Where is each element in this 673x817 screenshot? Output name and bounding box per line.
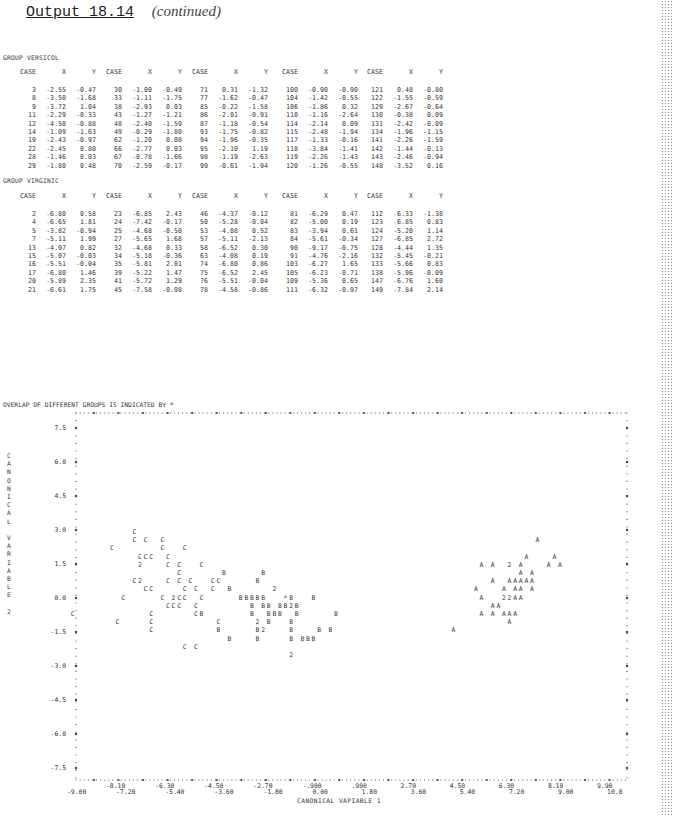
data-point: A	[513, 578, 517, 584]
data-point: C	[200, 562, 204, 568]
y-tick-label: 1.5	[54, 560, 66, 568]
data-point: C	[132, 578, 136, 584]
x-tick-label: -2.70	[253, 782, 272, 790]
data-point: B	[312, 595, 316, 601]
data-point: B	[278, 603, 282, 609]
data-point: C	[138, 554, 142, 560]
data-point: C	[160, 537, 164, 543]
data-point: 2	[261, 627, 265, 633]
data-point: A	[508, 619, 512, 625]
y-tick-label: -1.5	[51, 628, 66, 636]
data-point: B	[278, 611, 282, 617]
data-point: C	[149, 611, 153, 617]
data-point: 2	[138, 578, 142, 584]
data-point: C	[177, 603, 181, 609]
data-point: A	[519, 595, 523, 601]
data-point: A	[519, 578, 523, 584]
data-point: C	[172, 603, 176, 609]
data-point: C	[166, 554, 170, 560]
data-point: 2	[272, 586, 276, 592]
data-point: B	[261, 603, 265, 609]
data-point: C	[200, 595, 204, 601]
data-point: 2	[138, 562, 142, 568]
data-point: B	[312, 636, 316, 642]
data-point: B	[261, 595, 265, 601]
data-point: A	[452, 627, 456, 633]
data-point: B	[289, 619, 293, 625]
data-point: B	[289, 636, 293, 642]
y-axis-title: CANONICAL VARIABLE 2	[5, 452, 13, 616]
data-point: C	[188, 578, 192, 584]
data-point: B	[228, 586, 232, 592]
data-point: C	[144, 586, 148, 592]
data-point: B	[267, 603, 271, 609]
data-point: B	[228, 636, 232, 642]
y-tick-label: 0.0	[54, 594, 66, 602]
data-point: 2	[172, 595, 176, 601]
data-point: A	[480, 595, 484, 601]
data-point: B	[256, 578, 260, 584]
data-point: C	[149, 619, 153, 625]
data-point: B	[317, 627, 321, 633]
data-point: A	[513, 586, 517, 592]
data-point: B	[295, 603, 299, 609]
data-point: A	[491, 562, 495, 568]
x-tick-label: 9.90	[597, 782, 612, 790]
data-point: B	[216, 627, 220, 633]
data-point: C	[166, 578, 170, 584]
y-tick-label: -4.5	[51, 696, 66, 704]
data-point: C	[71, 611, 75, 617]
data-point: B	[256, 627, 260, 633]
data-point: A	[480, 562, 484, 568]
data-point: C	[132, 529, 136, 535]
data-point: B	[250, 611, 254, 617]
data-point: C	[149, 627, 153, 633]
data-point: C	[216, 578, 220, 584]
x-tick-label: -.900	[302, 782, 321, 790]
x-tick-label: -4.50	[204, 782, 223, 790]
data-point: B	[256, 636, 260, 642]
data-point: 2	[508, 562, 512, 568]
data-point: A	[502, 611, 506, 617]
x-tick-label: 8.10	[548, 782, 563, 790]
data-point: 2	[502, 595, 506, 601]
data-point: C	[194, 603, 198, 609]
data-point: B	[289, 627, 293, 633]
data-point: C	[216, 619, 220, 625]
data-point: B	[267, 619, 271, 625]
data-point: B	[256, 595, 260, 601]
x-axis-title: CANONICAL VAPIABLE 1	[297, 797, 381, 804]
data-point: C	[166, 603, 170, 609]
y-tick-label: 7.5	[54, 424, 66, 432]
x-tick-label: -8.10	[106, 782, 125, 790]
data-point: A	[491, 603, 495, 609]
data-point: A	[547, 562, 551, 568]
data-point: B	[261, 570, 265, 576]
data-point: B	[328, 627, 332, 633]
data-point: A	[491, 611, 495, 617]
data-point: C	[160, 595, 164, 601]
data-point: B	[334, 611, 338, 617]
data-point: C	[166, 562, 170, 568]
data-point: B	[267, 611, 271, 617]
scatter-plot-frame	[0, 0, 673, 817]
y-tick-label: 3.0	[54, 526, 66, 534]
data-point: C	[211, 586, 215, 592]
data-point: A	[513, 595, 517, 601]
data-point: 2	[289, 652, 293, 658]
x-tick-label: 6.30	[499, 782, 514, 790]
data-point: A	[530, 570, 534, 576]
x-tick-label: 4.50	[450, 782, 465, 790]
y-tick-label: -7.5	[51, 764, 66, 772]
data-point: C	[183, 595, 187, 601]
data-point: A	[530, 586, 534, 592]
data-point: C	[149, 554, 153, 560]
data-point: A	[480, 611, 484, 617]
data-point: C	[144, 554, 148, 560]
data-point: C	[132, 537, 136, 543]
data-point: B	[289, 595, 293, 601]
data-point: B	[272, 611, 276, 617]
data-point: C	[183, 545, 187, 551]
x-tick-label: -9.00	[67, 788, 86, 796]
data-point: A	[524, 578, 528, 584]
